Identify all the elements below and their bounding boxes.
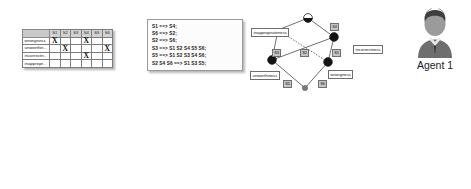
implication-rules-panel-1: S1 ==> S4; S6 ==> S2; S2 ==> S6; S3 ==> … bbox=[147, 19, 243, 71]
agent-1-row: S1 S2 S3 S4 S5 S6 wrongness X X bbox=[0, 0, 471, 94]
object-label-s3[interactable]: S3 bbox=[272, 49, 281, 57]
rule-line: S3 ==> S1 S2 S4 S5 S6; bbox=[152, 45, 238, 52]
cell-incorrectness-s5[interactable] bbox=[92, 52, 103, 60]
cell-inappropriateness-s5[interactable] bbox=[92, 60, 103, 68]
row-label-unworthiness: unworthin... bbox=[23, 45, 50, 53]
cell-incorrectness-s2[interactable] bbox=[60, 52, 71, 60]
lattice-node bbox=[324, 58, 333, 67]
cell-mark: X bbox=[50, 37, 60, 44]
rule-line: S1 ==> S4; bbox=[152, 23, 238, 30]
lattice-node-top-half bbox=[304, 18, 313, 22]
row-label-wrongness: wrongness bbox=[23, 37, 50, 45]
cell-unworthiness-s2[interactable]: X bbox=[60, 45, 71, 53]
cell-mark: X bbox=[103, 45, 113, 52]
table-header-row: S1 S2 S3 S4 S5 S6 bbox=[23, 30, 113, 38]
cell-unworthiness-s5[interactable] bbox=[92, 45, 103, 53]
lattice-node-bottom bbox=[302, 85, 307, 90]
cell-wrongness-s1[interactable]: X bbox=[50, 37, 61, 45]
cell-incorrectness-s3[interactable] bbox=[71, 52, 82, 60]
cell-inappropriateness-s3[interactable] bbox=[71, 60, 82, 68]
concept-label-inappropriateness[interactable]: inappropriateness bbox=[251, 28, 289, 37]
agent-1-block: Agent 1 bbox=[404, 8, 466, 71]
row-label-incorrectness: incorrectn... bbox=[23, 52, 50, 60]
agent-1-label: Agent 1 bbox=[404, 59, 466, 71]
row-label-inappropriateness: inappropr... bbox=[23, 60, 50, 68]
cell-inappropriateness-s2[interactable] bbox=[60, 60, 71, 68]
concept-label-incorrectness[interactable]: incorrectness bbox=[353, 45, 383, 54]
cell-incorrectness-s1[interactable] bbox=[50, 52, 61, 60]
person-avatar-icon bbox=[404, 8, 466, 58]
concept-label-unworthiness[interactable]: unworthiness bbox=[250, 71, 280, 80]
cell-incorrectness-s4[interactable]: X bbox=[81, 52, 92, 60]
figure-root: S1 S2 S3 S4 S5 S6 wrongness X X bbox=[0, 0, 471, 189]
object-label-s6[interactable]: S6 bbox=[318, 80, 327, 88]
formal-context-table-1: S1 S2 S3 S4 S5 S6 wrongness X X bbox=[22, 29, 113, 68]
matrix-table: S1 S2 S3 S4 S5 S6 wrongness X X bbox=[22, 29, 113, 68]
lattice-node bbox=[268, 56, 277, 65]
column-header-s2: S2 bbox=[60, 30, 71, 38]
concept-lattice-graph-1: inappropriateness incorrectness unworthi… bbox=[250, 2, 400, 94]
cell-unworthiness-s1[interactable] bbox=[50, 45, 61, 53]
agent-2-row: S1 S2 S3 S4 S5 S6 wrongness X X bbox=[0, 95, 471, 189]
rule-line: S6 ==> S2; bbox=[152, 30, 238, 37]
cell-wrongness-s4[interactable]: X bbox=[81, 37, 92, 45]
concept-label-wrongness[interactable]: wrongness bbox=[328, 70, 353, 79]
cell-inappropriateness-s4[interactable] bbox=[81, 60, 92, 68]
column-header-s5: S5 bbox=[92, 30, 103, 38]
cell-wrongness-s3[interactable] bbox=[71, 37, 82, 45]
object-label-s5[interactable]: S5 bbox=[283, 80, 292, 88]
object-label-s4[interactable]: S4 bbox=[330, 23, 339, 31]
cell-unworthiness-s3[interactable] bbox=[71, 45, 82, 53]
table-row: incorrectn... X bbox=[23, 52, 113, 60]
cell-mark: X bbox=[82, 37, 92, 44]
table-corner-cell bbox=[23, 30, 50, 38]
cell-incorrectness-s6[interactable] bbox=[102, 52, 113, 60]
cell-inappropriateness-s1[interactable] bbox=[50, 60, 61, 68]
table-row: inappropr... bbox=[23, 60, 113, 68]
cell-mark: X bbox=[82, 52, 92, 59]
rule-line: S2 ==> S6; bbox=[152, 37, 238, 44]
rule-line: S2 S4 S6 ==> S1 S3 S5; bbox=[152, 60, 238, 67]
column-header-s3: S3 bbox=[71, 30, 82, 38]
cell-mark: X bbox=[61, 45, 71, 52]
rule-line: S5 ==> S1 S2 S3 S4 S6; bbox=[152, 52, 238, 59]
cell-wrongness-s5[interactable] bbox=[92, 37, 103, 45]
cell-inappropriateness-s6[interactable] bbox=[102, 60, 113, 68]
column-header-s6: S6 bbox=[102, 30, 113, 38]
lattice-node bbox=[330, 33, 339, 42]
object-label-s1[interactable]: S1 bbox=[332, 49, 341, 57]
object-label-s2[interactable]: S2 bbox=[300, 49, 309, 57]
cell-unworthiness-s6[interactable]: X bbox=[102, 45, 113, 53]
table-row: unworthin... X X bbox=[23, 45, 113, 53]
